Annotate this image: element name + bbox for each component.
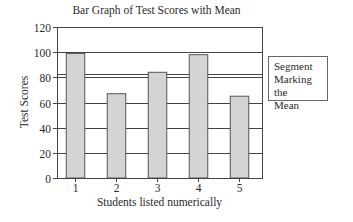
chart-title: Bar Graph of Test Scores with Mean [0,4,313,16]
bar [66,53,85,178]
bar [148,72,167,178]
tick-labels: 02040608010012012345 [34,22,243,195]
bar [107,94,126,178]
x-tick-label: 4 [196,182,202,194]
x-tick-label: 2 [114,182,120,194]
bar [230,96,249,178]
y-tick-label: 60 [40,98,52,110]
y-tick-label: 100 [34,47,52,59]
legend-line-2: Marking the [274,73,322,99]
x-tick-label: 5 [237,182,243,194]
y-tick-label: 120 [34,22,52,34]
x-axis-label: Students listed numerically [57,196,262,208]
x-tick-label: 3 [155,182,161,194]
bars [66,53,249,178]
y-tick-label: 80 [40,72,52,84]
y-tick-label: 40 [40,123,52,135]
y-tick-label: 20 [40,148,52,160]
bar [189,55,208,178]
y-axis-label: Test Scores [18,64,30,140]
legend-box: Segment Marking the Mean [268,56,328,101]
legend-line-1: Segment [274,60,322,73]
x-tick-label: 1 [73,182,79,194]
legend-line-3: Mean [274,99,322,112]
y-tick-label: 0 [45,173,51,185]
